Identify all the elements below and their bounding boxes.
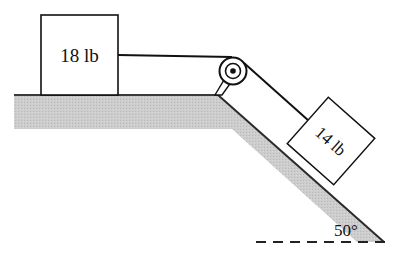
diagram-canvas: 50° 18 lb 14 lb	[0, 0, 410, 257]
block-18lb: 18 lb	[41, 15, 118, 95]
incline-angle-label: 50°	[334, 221, 358, 240]
pulley-icon	[220, 58, 247, 85]
block-18lb-label: 18 lb	[60, 45, 99, 66]
